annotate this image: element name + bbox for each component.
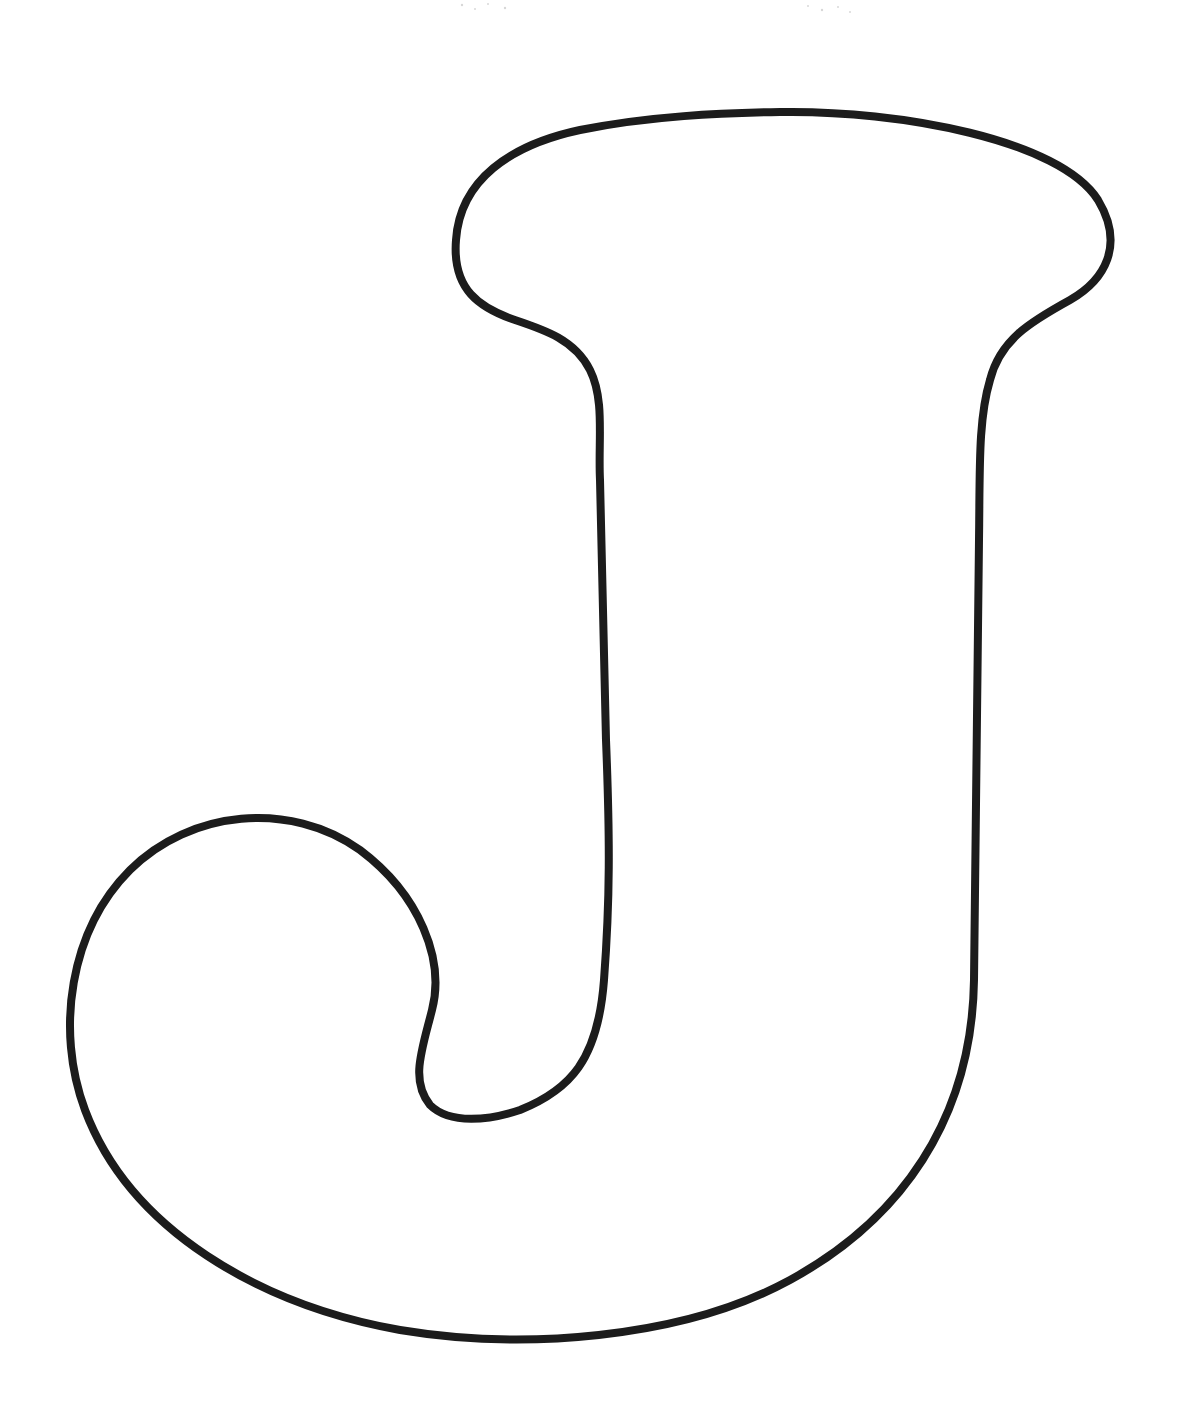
scan-noise bbox=[461, 3, 851, 13]
coloring-page: J bbox=[0, 0, 1191, 1411]
letter-j-path bbox=[70, 112, 1111, 1339]
letter-j-outline bbox=[0, 0, 1191, 1411]
